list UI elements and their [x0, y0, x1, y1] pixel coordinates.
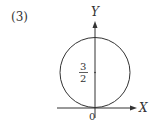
- x-axis-arrow-icon: [130, 106, 137, 111]
- fraction-denominator: 2: [80, 74, 86, 84]
- origin-label: 0: [89, 112, 95, 122]
- x-axis-label: X: [139, 102, 148, 114]
- fraction-numerator: 3: [80, 62, 86, 72]
- y-axis-arrow-icon: [93, 21, 98, 28]
- y-axis-label: Y: [91, 6, 99, 18]
- center-point: [94, 72, 96, 74]
